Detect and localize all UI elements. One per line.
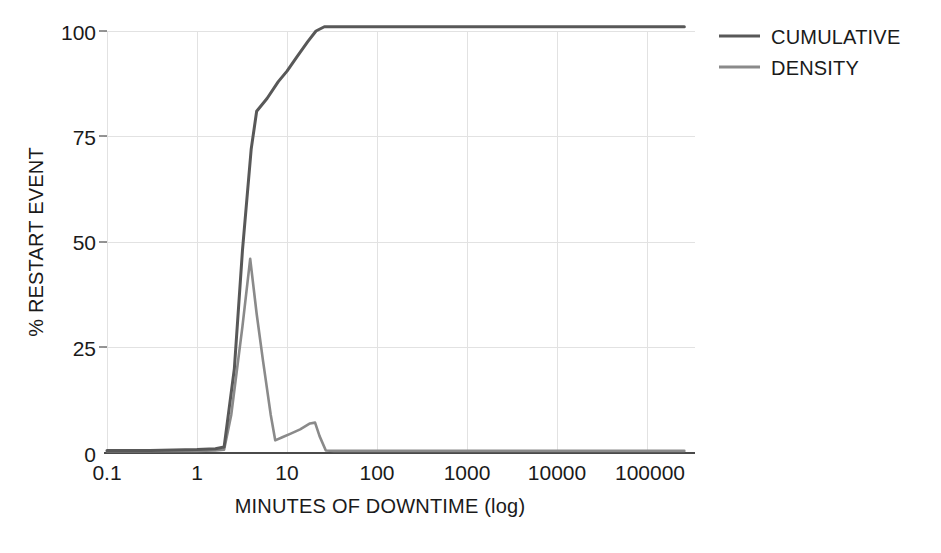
y-axis-title: % RESTART EVENT [25,147,47,337]
x-tick-label-100: 100 [359,461,394,484]
y-tick-label-100: 100 [61,21,96,44]
x-tick-label-10: 10 [275,461,298,484]
x-tick-label-10000: 10000 [528,461,586,484]
legend-label-cumulative: CUMULATIVE [771,26,900,48]
x-tick-label-0.1: 0.1 [92,461,121,484]
chart-legend: CUMULATIVE DENSITY [719,26,900,79]
legend-label-density: DENSITY [771,57,859,79]
y-tick-label-75: 75 [73,126,96,149]
x-tick-label-100000: 100000 [615,461,685,484]
y-tick-label-50: 50 [73,231,96,254]
x-tick-label-1: 1 [191,461,203,484]
x-tick-label-1000: 1000 [444,461,491,484]
y-tick-label-25: 25 [73,337,96,360]
y-axis-tick-labels: 100 75 50 25 0 [61,21,96,466]
chart-figure: 100 75 50 25 0 0.1 1 10 100 1000 10000 1… [0,0,941,553]
restart-event-downtime-chart: 100 75 50 25 0 0.1 1 10 100 1000 10000 1… [0,0,941,553]
x-axis-title: MINUTES OF DOWNTIME (log) [235,495,526,517]
x-axis-tick-labels: 0.1 1 10 100 1000 10000 100000 [92,461,685,484]
